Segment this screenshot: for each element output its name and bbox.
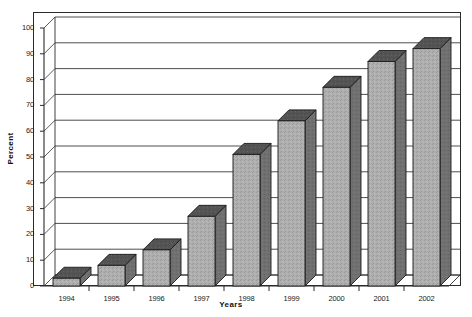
- bar-side-face: [260, 143, 271, 286]
- y-tick-label: 10: [12, 256, 34, 264]
- bar-1997: [188, 205, 226, 286]
- bar-front-face: [323, 87, 350, 286]
- chart-canvas: [0, 0, 472, 317]
- bars-group: [53, 38, 451, 286]
- bar-chart: 100 90 80 70 60 50 40 30 20 10 0 1994 19…: [0, 0, 472, 317]
- x-tick-label: 1996: [134, 294, 180, 303]
- y-tick-label: 20: [12, 230, 34, 238]
- depth-connectors: [44, 17, 55, 286]
- y-tick-label: 0: [12, 282, 34, 290]
- x-tick-marks: [89, 286, 404, 291]
- y-tick-label: 100: [12, 24, 34, 32]
- bar-side-face: [215, 205, 226, 286]
- y-tick-label: 80: [12, 76, 34, 84]
- x-tick-label: 1994: [44, 294, 90, 303]
- y-tick-label: 40: [12, 179, 34, 187]
- bar-side-face: [350, 76, 361, 286]
- bar-1996: [143, 239, 181, 286]
- x-tick-label: 2002: [404, 294, 450, 303]
- bar-2001: [368, 51, 406, 286]
- bar-side-face: [440, 38, 451, 286]
- bar-front-face: [143, 250, 170, 286]
- bar-2000: [323, 76, 361, 286]
- bar-front-face: [368, 62, 395, 286]
- bar-2002: [413, 38, 451, 286]
- y-tick-label: 70: [12, 101, 34, 109]
- x-tick-label: 2001: [359, 294, 405, 303]
- bar-front-face: [188, 216, 215, 286]
- y-axis-title: Percent: [6, 120, 15, 178]
- bar-front-face: [278, 121, 305, 286]
- y-tick-label: 50: [12, 153, 34, 161]
- x-tick-label: 1995: [89, 294, 135, 303]
- bar-front-face: [233, 154, 260, 286]
- bar-side-face: [305, 110, 316, 286]
- bar-1998: [233, 143, 271, 286]
- bar-front-face: [98, 265, 125, 286]
- bar-front-face: [53, 278, 80, 286]
- bar-1994: [53, 267, 91, 286]
- y-tick-label: 90: [12, 50, 34, 58]
- x-tick-label: 2000: [314, 294, 360, 303]
- y-tick-label: 30: [12, 205, 34, 213]
- y-tick-label: 60: [12, 127, 34, 135]
- bar-1999: [278, 110, 316, 286]
- bar-side-face: [395, 51, 406, 286]
- bar-front-face: [413, 49, 440, 286]
- y-tick-marks: [40, 28, 44, 286]
- bar-1995: [98, 254, 136, 286]
- x-axis-title: Years: [186, 300, 276, 309]
